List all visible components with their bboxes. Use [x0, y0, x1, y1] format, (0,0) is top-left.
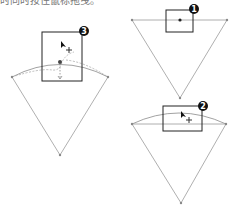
svg-text:2: 2	[200, 102, 206, 111]
vertex-point	[11, 76, 13, 78]
svg-text:1: 1	[191, 5, 197, 14]
arc-curve	[132, 113, 226, 124]
triangle-right-edge	[181, 124, 226, 203]
cursor-arrow-icon	[61, 41, 66, 48]
zoom-highlight-box	[42, 32, 82, 81]
cursor-arrow-icon	[181, 111, 186, 118]
step-marker-1: 1	[189, 4, 199, 14]
step-marker-2: 2	[198, 101, 208, 111]
vertex-point	[131, 123, 133, 125]
crosshair-plus-icon	[186, 117, 192, 123]
fan-right-edge	[60, 77, 108, 155]
vertex-point	[131, 19, 133, 21]
triangle-left-edge	[132, 124, 181, 203]
vertex-point	[225, 123, 227, 125]
step-3-panel: 3	[11, 26, 109, 156]
vertex-point	[179, 97, 181, 99]
step-2-panel: 2	[131, 101, 227, 204]
step-marker-3: 3	[79, 26, 89, 36]
vertex-point	[59, 154, 61, 156]
fan-left-edge	[12, 77, 60, 155]
svg-text:3: 3	[81, 27, 87, 36]
vertex-point	[107, 76, 109, 78]
step-1-panel: 1	[131, 4, 228, 99]
crosshair-plus-icon	[66, 47, 72, 53]
fan-drawing-diagram: 1 2	[0, 0, 230, 212]
midpoint-dot	[178, 18, 181, 21]
vertex-point	[226, 19, 228, 21]
arc-midpoint-dot	[58, 60, 62, 64]
vertex-point	[180, 202, 182, 204]
zoom-highlight-box	[163, 106, 202, 131]
